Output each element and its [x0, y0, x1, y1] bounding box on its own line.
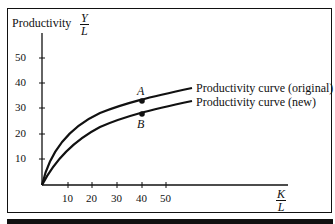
y-tick-label: 10	[15, 152, 26, 164]
x-frac-den: L	[276, 201, 286, 213]
x-axis-fraction: K L	[276, 188, 286, 213]
series-label-new: Productivity curve (new)	[196, 95, 316, 110]
y-tick-label: 20	[15, 127, 26, 139]
y-axis-fraction: Y L	[80, 12, 89, 37]
series-label-original: Productivity curve (original)	[196, 81, 333, 96]
point-a	[139, 98, 145, 104]
x-tick-label: 30	[111, 192, 122, 204]
y-frac-den: L	[80, 25, 89, 37]
x-tick-label: 40	[136, 192, 147, 204]
point-b-label: B	[137, 117, 144, 132]
x-tick-label: 50	[160, 192, 171, 204]
y-tick-label: 30	[15, 101, 26, 113]
curve-new	[42, 101, 192, 185]
x-tick-label: 10	[62, 192, 73, 204]
y-tick-label: 40	[15, 76, 26, 88]
curve-original	[42, 88, 192, 185]
point-b	[139, 111, 145, 117]
y-axis-label: Productivity	[12, 16, 71, 31]
point-a-label: A	[137, 84, 144, 99]
x-tick-label: 20	[86, 192, 97, 204]
y-tick-label: 50	[15, 51, 26, 63]
